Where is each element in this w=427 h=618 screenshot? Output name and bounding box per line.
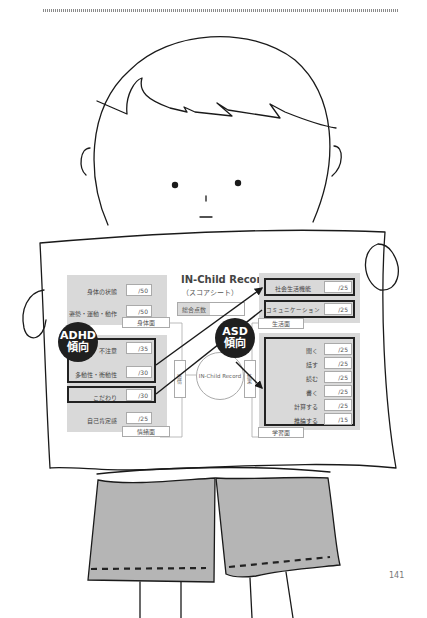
asd-badge: ASD 傾向 (215, 318, 255, 358)
badge-line2: 傾向 (224, 338, 246, 350)
arrows (0, 0, 427, 618)
adhd-badge: ADHD 傾向 (58, 322, 98, 362)
badge-line2: 傾向 (67, 342, 89, 354)
page-number: 141 (389, 571, 404, 580)
arrow-asd-to-learning (236, 362, 262, 388)
